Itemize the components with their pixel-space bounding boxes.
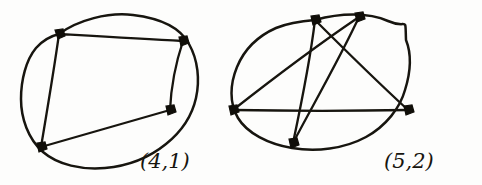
figure-left-label: (4,1) (140, 149, 190, 173)
figure-left-chord-v2-v3 (170, 41, 183, 110)
figure-left-chord-v1-v2 (59, 34, 183, 41)
figure-right-vertex-w5 (229, 105, 239, 115)
figure-right-vertex-w4 (289, 138, 299, 148)
figure-left-vertex-v1 (55, 29, 65, 39)
figure-right-chord-w5-w3 (233, 110, 408, 111)
figure-right: (5,2) (229, 12, 434, 173)
figure-right-vertex-w3 (404, 105, 414, 115)
figure-left: (4,1) (21, 14, 198, 173)
figure-left-vertex-v3 (166, 105, 176, 115)
figure-right-outline (232, 15, 410, 150)
drawing-canvas: (4,1) (5,2) (0, 0, 482, 185)
figure-right-chord-w1-w3 (315, 20, 408, 110)
figure-right-vertex-w2 (355, 12, 365, 22)
figure-left-chord-v3-v4 (41, 110, 170, 147)
chord-diagram-svg: (4,1) (5,2) (0, 0, 482, 185)
figure-right-label: (5,2) (384, 149, 434, 173)
figure-left-vertex-v4 (37, 142, 47, 152)
figure-left-vertex-v2 (179, 36, 189, 46)
figure-right-chord-w5-w2 (233, 17, 359, 110)
figure-left-chord-v4-v1 (41, 34, 59, 147)
figure-right-chord-w2-w4 (293, 17, 359, 143)
